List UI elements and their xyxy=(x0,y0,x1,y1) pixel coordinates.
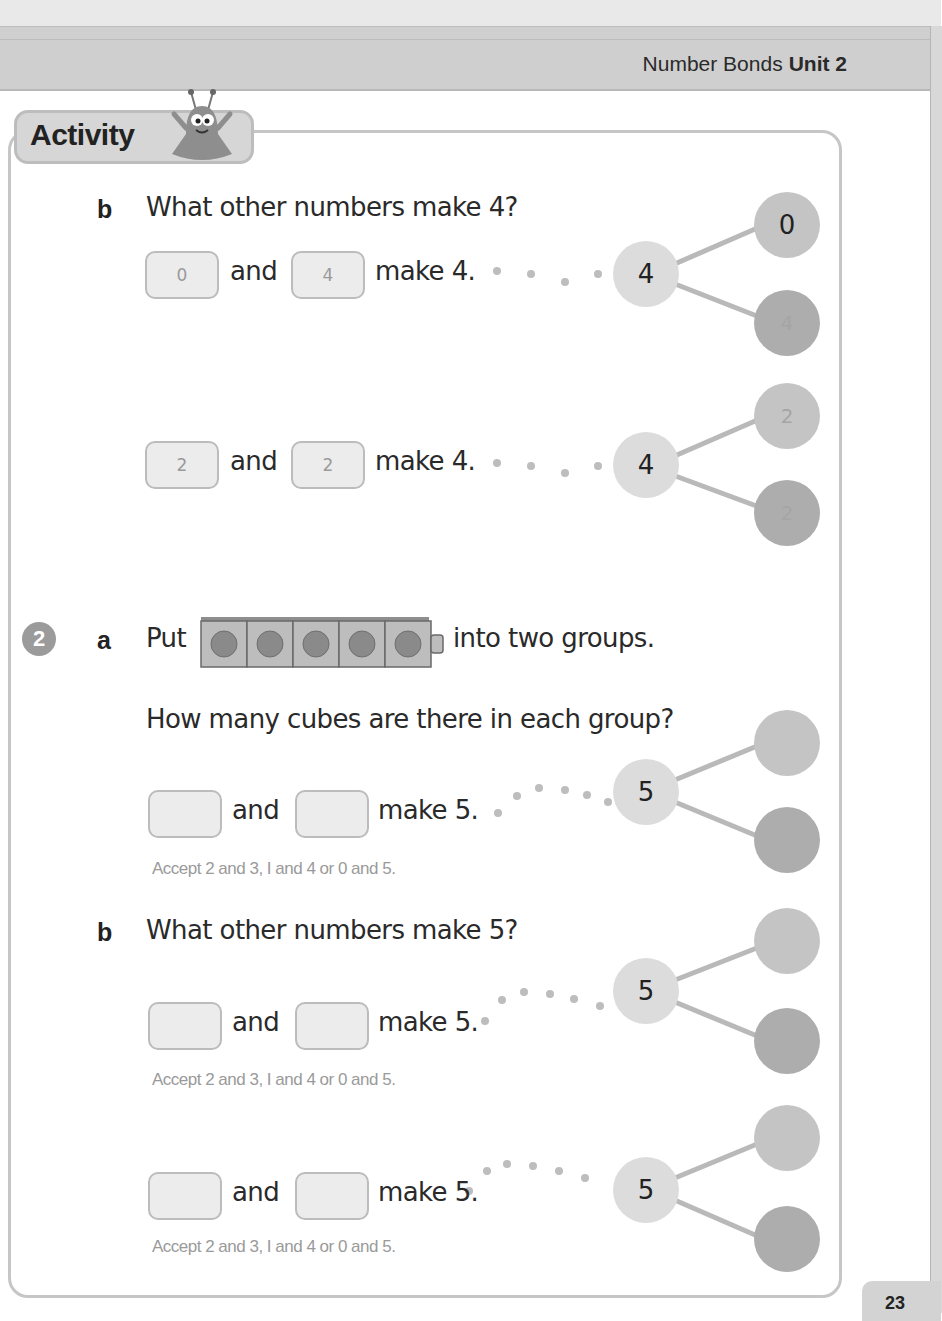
question-2a-prompt-before: Put xyxy=(146,623,186,653)
question-2b-letter: b xyxy=(97,918,112,947)
bond-part-node[interactable] xyxy=(754,807,820,873)
page-number: 23 xyxy=(885,1293,905,1314)
and-text: and xyxy=(232,1177,279,1207)
bond-part-node[interactable] xyxy=(754,908,820,974)
unit-title: Number Bonds xyxy=(643,52,783,75)
question-2a-prompt-after: into two groups. xyxy=(453,623,654,653)
bond-part-node[interactable]: 4 xyxy=(754,290,820,356)
bond-part-node[interactable]: 2 xyxy=(754,480,820,546)
answer-box[interactable] xyxy=(148,1002,222,1050)
bond-part-node[interactable] xyxy=(754,1206,820,1272)
page-edge xyxy=(930,26,942,1313)
answer-box[interactable] xyxy=(295,790,369,838)
answer-note: Accept 2 and 3, I and 4 or 0 and 5. xyxy=(152,1237,395,1257)
answer-box[interactable] xyxy=(295,1172,369,1220)
and-text: and xyxy=(230,256,277,286)
bond-whole-node: 5 xyxy=(613,958,679,1024)
make-text: make 5. xyxy=(378,795,478,825)
activity-label: Activity xyxy=(30,118,134,152)
bond-whole-node: 4 xyxy=(613,241,679,307)
answer-box[interactable] xyxy=(148,1172,222,1220)
bond-whole-node: 4 xyxy=(613,432,679,498)
bond-part-node[interactable] xyxy=(754,1105,820,1171)
bond-part-node[interactable] xyxy=(754,1008,820,1074)
answer-box[interactable]: 4 xyxy=(291,251,365,299)
answer-note: Accept 2 and 3, I and 4 or 0 and 5. xyxy=(152,1070,395,1090)
answer-box[interactable]: 0 xyxy=(145,251,219,299)
bond-part-node[interactable] xyxy=(754,710,820,776)
question-2a-subprompt: How many cubes are there in each group? xyxy=(146,704,674,734)
question-number-badge: 2 xyxy=(22,622,56,656)
bond-whole-node: 5 xyxy=(613,1157,679,1223)
page-top-strip xyxy=(0,0,941,28)
alien-mascot-icon xyxy=(166,88,238,166)
make-text: make 4. xyxy=(375,256,475,286)
question-2a-letter: a xyxy=(97,626,111,655)
cube-train-icon xyxy=(199,613,451,669)
answer-box[interactable]: 2 xyxy=(291,441,365,489)
bond-part-node[interactable]: 2 xyxy=(754,383,820,449)
unit-header: Number BondsUnit 2 xyxy=(643,52,847,76)
unit-label: Unit 2 xyxy=(789,52,847,75)
answer-box[interactable] xyxy=(295,1002,369,1050)
answer-box[interactable]: 2 xyxy=(145,441,219,489)
make-text: make 5. xyxy=(378,1007,478,1037)
answer-note: Accept 2 and 3, I and 4 or 0 and 5. xyxy=(152,859,395,879)
question-1b-prompt: What other numbers make 4? xyxy=(146,192,518,222)
and-text: and xyxy=(232,1007,279,1037)
bond-whole-node: 5 xyxy=(613,759,679,825)
and-text: and xyxy=(230,446,277,476)
bond-part-node[interactable]: 0 xyxy=(754,192,820,258)
make-text: make 5. xyxy=(378,1177,478,1207)
and-text: and xyxy=(232,795,279,825)
answer-box[interactable] xyxy=(148,790,222,838)
make-text: make 4. xyxy=(375,446,475,476)
question-2b-prompt: What other numbers make 5? xyxy=(146,915,518,945)
question-1b-letter: b xyxy=(97,195,112,224)
